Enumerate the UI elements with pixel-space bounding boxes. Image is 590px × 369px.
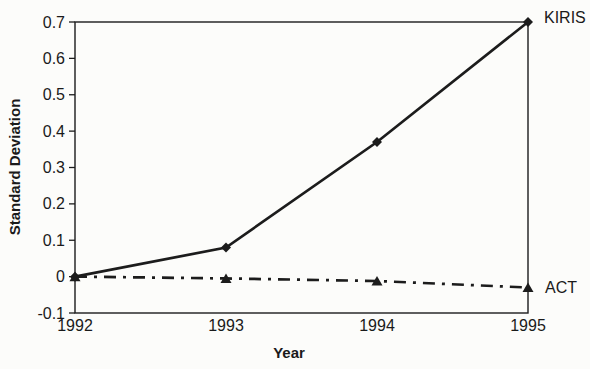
act-line — [75, 277, 528, 288]
y-tick-label: 0.4 — [43, 123, 65, 140]
plot-frame — [75, 22, 528, 313]
y-tick-label: 0.5 — [43, 86, 65, 103]
series-label-act: ACT — [545, 279, 577, 297]
y-tick-label: 0.3 — [43, 159, 65, 176]
series-label-kiris: KIRIS — [544, 9, 586, 27]
y-tick-label: 0.7 — [43, 14, 65, 31]
y-tick-label: 0 — [56, 268, 65, 285]
x-tick-label: 1992 — [57, 317, 93, 334]
x-axis-title: Year — [273, 344, 305, 361]
y-tick-label: 0.1 — [43, 232, 65, 249]
y-tick-label: 0.2 — [43, 195, 65, 212]
y-axis-title: Standard Deviation — [6, 99, 23, 236]
chart-container: 0.70.60.50.40.30.20.10-0.119921993199419… — [0, 0, 590, 369]
act-marker-triangle — [523, 283, 534, 293]
kiris-line — [75, 22, 528, 277]
plot-area: 0.70.60.50.40.30.20.10-0.119921993199419… — [0, 0, 590, 369]
x-tick-label: 1995 — [510, 317, 546, 334]
x-tick-label: 1993 — [208, 317, 244, 334]
x-tick-label: 1994 — [359, 317, 395, 334]
y-tick-label: 0.6 — [43, 50, 65, 67]
